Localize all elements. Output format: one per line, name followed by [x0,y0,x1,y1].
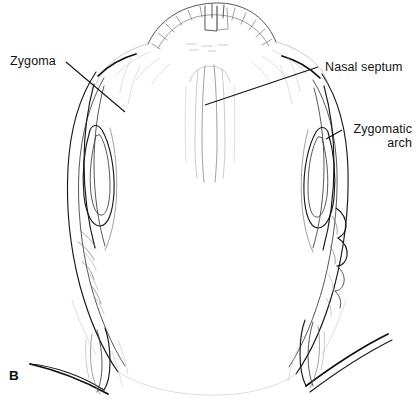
label-zygomatic-arch-line2: arch [387,136,412,150]
label-zygoma: Zygoma [10,54,56,68]
label-nasal-septum: Nasal septum [325,60,403,74]
hard-palate [96,42,328,84]
label-zygomatic-arch: Zygomatic arch [344,122,412,150]
skull-base-figure: Zygoma Nasal septum Zygomatic arch B [0,0,416,409]
maxillary-dental-arch [148,3,276,51]
nasal-septum [185,65,235,182]
label-zygomatic-arch-line1: Zygomatic [353,122,412,136]
left-zygomatic-arch [78,54,136,314]
figure-panel-letter: B [9,368,19,383]
right-mandibular-process [288,320,392,392]
left-mandibular-process [30,328,128,394]
leader-zygoma [66,62,125,112]
leader-nasal-septum [205,67,318,105]
